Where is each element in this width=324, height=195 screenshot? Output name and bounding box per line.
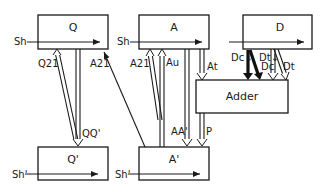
- box-d: D: [243, 15, 312, 49]
- p-label: P: [206, 126, 212, 137]
- box-a-label: A: [170, 21, 178, 34]
- box-q: Q: [38, 15, 108, 49]
- box-a: A: [139, 15, 209, 49]
- box-a-prime: A': [139, 147, 209, 180]
- box-q-prime-label: Q': [67, 153, 79, 166]
- a21-right-label: A21: [130, 58, 150, 69]
- arrow-a21-self: A21: [130, 49, 162, 120]
- at-label: At: [207, 61, 218, 72]
- box-q-prime: Q': [38, 147, 108, 180]
- arrow-dc-down: Dc↓: [231, 50, 253, 80]
- q21-label: Q21: [38, 58, 59, 69]
- sh-q-label: Sh: [14, 36, 27, 47]
- box-a-prime-label: A': [169, 153, 180, 166]
- sh-a-label: Sh: [117, 36, 130, 47]
- au-label: Au: [166, 57, 179, 68]
- dc-down-label: Dc↓: [231, 52, 253, 63]
- box-adder-label: Adder: [226, 90, 259, 103]
- dt-label: Dt: [283, 61, 295, 72]
- box-q-label: Q: [69, 21, 78, 34]
- box-d-label: D: [276, 21, 284, 34]
- diagram-canvas: Q A D Adder Q' A' Sh Sh Sh' Sh': [0, 0, 324, 195]
- arrow-at: At: [197, 49, 218, 80]
- aa-prime-label: AA': [171, 126, 188, 137]
- qq-prime-label: QQ': [82, 128, 101, 139]
- arrow-q21: Q21: [38, 49, 78, 140]
- box-adder: Adder: [196, 80, 288, 113]
- arrow-p: P: [197, 113, 212, 146]
- a21-left-label: A21: [90, 58, 110, 69]
